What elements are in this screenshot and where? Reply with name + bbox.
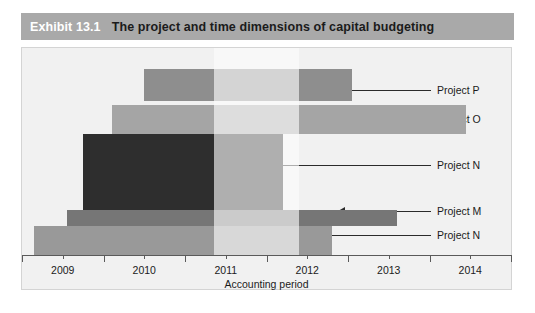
x-axis-title: Accounting period: [224, 278, 308, 290]
exhibit-figure: Exhibit 13.1 The project and time dimens…: [0, 0, 535, 313]
x-axis-tick-minor: [470, 255, 471, 259]
exhibit-number: Exhibit 13.1: [30, 20, 101, 34]
x-axis-label-2011: 2011: [214, 264, 237, 276]
period-highlight-overlay: [214, 48, 300, 255]
x-axis-tick-major: [267, 255, 268, 262]
x-axis-label-2014: 2014: [459, 264, 482, 276]
x-axis-tick-major: [185, 255, 186, 262]
x-axis-tick-minor: [63, 255, 64, 259]
x-axis-tick-major: [348, 255, 349, 262]
x-axis-tick-minor: [226, 255, 227, 259]
x-axis-label-2010: 2010: [133, 264, 156, 276]
x-axis-tick-minor: [307, 255, 308, 259]
exhibit-title: The project and time dimensions of capit…: [112, 20, 435, 34]
x-axis-tick-major: [22, 255, 23, 262]
callout-label-3: Project N: [437, 159, 480, 171]
callout-label-1: Project P: [437, 84, 480, 96]
exhibit-header-band: Exhibit 13.1 The project and time dimens…: [21, 13, 514, 40]
x-axis-tick-major: [430, 255, 431, 262]
x-axis-label-2013: 2013: [377, 264, 400, 276]
callout-label-5: Project N: [437, 229, 480, 241]
x-axis-tick-major: [511, 255, 512, 262]
x-axis-label-2012: 2012: [296, 264, 319, 276]
x-axis-tick-major: [104, 255, 105, 262]
x-axis-tick-minor: [144, 255, 145, 259]
x-axis-label-2009: 2009: [51, 264, 74, 276]
x-axis-tick-minor: [389, 255, 390, 259]
callout-label-4: Project M: [437, 205, 481, 217]
